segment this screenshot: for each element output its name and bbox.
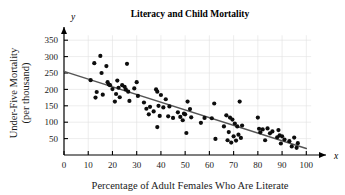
x-tick-label: 90: [278, 160, 288, 170]
x-axis-letter: x: [333, 151, 339, 161]
x-tick-label: 30: [132, 160, 142, 170]
data-point: [232, 134, 236, 138]
data-point: [113, 99, 117, 103]
data-point: [263, 138, 267, 142]
y-axis-arrow: [61, 27, 67, 34]
x-axis-ticks: 0102030405060708090100: [62, 151, 314, 170]
data-point: [292, 136, 296, 140]
data-point: [238, 99, 242, 103]
data-point: [290, 144, 294, 148]
data-point: [98, 54, 102, 58]
data-point: [257, 127, 261, 131]
data-point: [265, 126, 269, 130]
data-point: [202, 116, 206, 120]
data-point: [167, 104, 171, 108]
data-point: [118, 95, 122, 99]
data-point: [115, 78, 119, 82]
data-point: [234, 138, 238, 142]
data-point: [212, 101, 216, 105]
data-point: [230, 117, 234, 121]
data-point: [126, 90, 130, 94]
y-tick-label: 300: [45, 52, 59, 62]
data-point: [116, 86, 120, 90]
data-point: [155, 125, 159, 129]
data-point: [110, 87, 114, 91]
data-point: [158, 114, 162, 118]
data-point: [148, 105, 152, 109]
chart-canvas: Literacy and Child Mortality 01020304050…: [0, 0, 345, 195]
x-tick-label: 70: [229, 160, 239, 170]
data-point: [183, 112, 187, 116]
data-point: [156, 104, 160, 108]
data-point: [227, 130, 231, 134]
data-point: [114, 92, 118, 96]
data-point: [239, 136, 243, 140]
x-tick-label: 50: [181, 160, 191, 170]
data-point: [93, 96, 97, 100]
x-tick-label: 10: [84, 160, 94, 170]
data-point: [152, 109, 156, 113]
data-point: [240, 123, 244, 127]
x-tick-label: 60: [205, 160, 215, 170]
x-tick-label: 20: [108, 160, 118, 170]
data-point: [125, 62, 129, 66]
data-point: [188, 107, 192, 111]
data-point: [99, 71, 103, 75]
y-axis-label-line1: Under-Five Mortality: [8, 47, 19, 138]
x-axis-label: Percentage of Adult Females Who Are Lite…: [92, 180, 289, 191]
data-point: [161, 105, 165, 109]
y-tick-label: 250: [45, 68, 59, 78]
data-point: [184, 131, 188, 135]
data-point: [159, 93, 163, 97]
data-point: [261, 127, 265, 131]
data-point: [276, 128, 280, 132]
x-axis-arrow: [319, 152, 326, 158]
data-point: [166, 114, 170, 118]
y-tick-label: 100: [45, 117, 59, 127]
chart-title: Literacy and Child Mortality: [131, 9, 250, 19]
data-point: [213, 137, 217, 141]
data-point: [108, 83, 112, 87]
data-point: [229, 140, 233, 144]
data-point: [132, 86, 136, 90]
data-point: [101, 93, 105, 97]
data-point: [89, 78, 93, 82]
data-point: [104, 64, 108, 68]
x-tick-label: 40: [156, 160, 166, 170]
y-tick-label: 50: [49, 134, 59, 144]
data-point: [270, 129, 274, 133]
y-tick-label: 150: [45, 101, 59, 111]
y-tick-label: 200: [45, 85, 59, 95]
x-tick-label: 80: [253, 160, 263, 170]
scatter-chart: Literacy and Child Mortality 01020304050…: [0, 0, 345, 195]
data-point: [171, 116, 175, 120]
data-point: [256, 116, 260, 120]
data-point: [222, 124, 226, 128]
data-point: [199, 121, 203, 125]
data-point: [185, 99, 189, 103]
data-point: [147, 112, 151, 116]
data-point: [225, 138, 229, 142]
data-point: [127, 99, 131, 103]
y-tick-label: 350: [45, 35, 59, 45]
data-point: [164, 97, 168, 101]
data-point: [282, 137, 286, 141]
x-tick-label: 100: [300, 160, 314, 170]
data-point: [279, 141, 283, 145]
data-point: [210, 116, 214, 120]
data-point: [142, 100, 146, 104]
data-point: [296, 141, 300, 145]
data-point: [235, 124, 239, 128]
x-tick-label: 0: [62, 160, 67, 170]
data-point: [189, 115, 193, 119]
data-point: [155, 90, 159, 94]
y-axis-letter: y: [70, 12, 76, 22]
data-point: [92, 61, 96, 65]
data-point: [176, 110, 180, 114]
data-point: [295, 146, 299, 150]
data-point: [181, 118, 185, 122]
y-axis-label-line2: (per thousand): [20, 62, 32, 123]
data-point: [144, 107, 148, 111]
data-point: [136, 94, 140, 98]
data-point: [224, 113, 228, 117]
